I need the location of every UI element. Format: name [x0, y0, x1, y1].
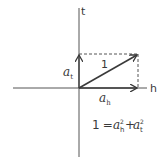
- svg-text:1=: 1=: [92, 118, 113, 132]
- t-axis-label: t: [81, 5, 86, 18]
- horizontal-component-label: ah: [99, 91, 111, 107]
- svg-text:2: 2: [120, 118, 124, 125]
- pythagorean-equation: 1= a 2 h + a 2 t: [92, 118, 144, 134]
- vertical-component-label: at: [63, 65, 73, 81]
- vector-decomposition-diagram: t h 1 at ah 1= a 2 h + a 2 t: [0, 0, 163, 163]
- h-axis-label: h: [150, 82, 157, 95]
- vector-magnitude-label: 1: [101, 58, 108, 71]
- unit-vector-arrow: [79, 55, 137, 88]
- diagram-canvas: t h 1 at ah 1= a 2 h + a 2 t: [0, 0, 163, 163]
- svg-text:t: t: [140, 126, 143, 134]
- svg-text:2: 2: [140, 118, 144, 125]
- svg-text:h: h: [120, 126, 124, 134]
